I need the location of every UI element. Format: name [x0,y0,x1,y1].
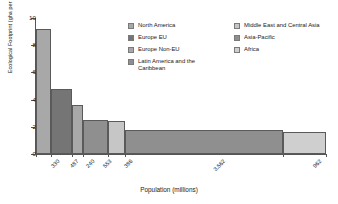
bar-asia-pacific [125,130,283,154]
legend-item: Europe Non-EU [128,46,220,53]
legend-item-label: North America [138,22,175,29]
x-tick-mark [72,154,73,157]
x-tick-label: 553 [102,158,113,169]
bar-latin-america-and-the-caribbean [83,120,108,154]
bar-europe-eu [51,89,73,154]
bar-europe-non-eu [72,105,83,154]
legend-column-left: North AmericaEurope EUEurope Non-EULatin… [128,22,220,71]
legend-swatch-icon [234,35,240,41]
bar-middle-east-and-central-asia [108,121,125,154]
x-tick-label: 3,562 [212,158,226,172]
x-tick-label: 487 [68,158,79,169]
legend-item: Middle East and Central Asia [234,22,326,29]
x-tick-mark [326,154,327,157]
legend-item-label: Latin America and the Caribbean [138,58,220,71]
y-tick-label: 2 [14,123,36,130]
y-tick-label: 6 [14,68,36,75]
bar-africa [283,132,326,154]
legend-swatch-icon [234,47,240,53]
legend-item-label: Africa [244,46,259,53]
x-tick-label: 386 [123,158,134,169]
bar-north-america [36,29,51,154]
legend-swatch-icon [128,59,134,65]
legend-item: Europe EU [128,34,220,41]
y-axis-title: Ecological Footprint (gha per person) [7,0,13,97]
legend-item-label: Europe EU [138,34,167,41]
legend-item-label: Europe Non-EU [138,46,180,53]
ecological-footprint-chart: Ecological Footprint (gha per person) 10… [0,0,338,204]
legend-item: Latin America and the Caribbean [128,58,220,71]
y-tick-label: 0 [14,150,36,157]
y-tick-label: 8 [14,41,36,48]
x-tick-mark [125,154,126,157]
legend-swatch-icon [128,35,134,41]
x-tick-label: 240 [84,158,95,169]
x-tick-mark [83,154,84,157]
y-tick-label: 10 [14,14,36,21]
x-tick-label: 962 [311,158,322,169]
legend-item-label: Asia-Pacific [244,34,275,41]
legend-item: North America [128,22,220,29]
legend-item: Africa [234,46,326,53]
legend-swatch-icon [128,23,134,29]
y-tick-label: 4 [14,96,36,103]
x-tick-mark [108,154,109,157]
x-tick-mark [283,154,284,157]
x-axis-title: Population (millions) [0,186,338,193]
legend-item: Asia-Pacific [234,34,326,41]
x-tick-label: 330 [50,158,61,169]
legend-item-label: Middle East and Central Asia [244,22,320,29]
legend-column-right: Middle East and Central AsiaAsia-Pacific… [234,22,326,71]
x-tick-mark [36,154,37,157]
legend-swatch-icon [128,47,134,53]
legend-swatch-icon [234,23,240,29]
legend: North AmericaEurope EUEurope Non-EULatin… [128,22,333,71]
x-tick-mark [51,154,52,157]
